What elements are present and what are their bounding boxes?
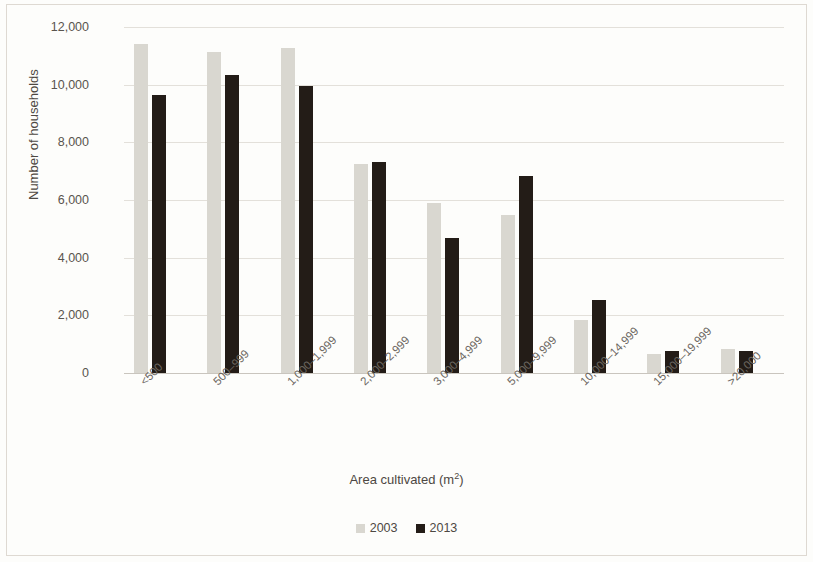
legend-item-2013[interactable]: 2013 [416, 521, 458, 535]
bar-group [417, 27, 490, 373]
bar-2013[interactable] [225, 75, 239, 373]
chart-page: Number of households 02,0004,0006,0008,0… [0, 0, 813, 562]
legend-label-2003: 2003 [370, 521, 398, 535]
bar-2003[interactable] [354, 164, 368, 373]
page-border-top [6, 4, 807, 5]
page-border-bottom [6, 555, 807, 556]
y-axis-tick-label: 0 [9, 366, 89, 380]
bar-2013[interactable] [299, 86, 313, 373]
bar-2003[interactable] [281, 48, 295, 373]
y-axis-tick-label: 12,000 [9, 20, 89, 34]
y-axis-tick-label: 2,000 [9, 308, 89, 322]
chart-legend: 2003 2013 [0, 521, 813, 535]
bar-2003[interactable] [501, 215, 515, 373]
bar-group [637, 27, 710, 373]
bar-2003[interactable] [574, 320, 588, 373]
bar-2003[interactable] [721, 349, 735, 373]
y-axis-tick-label: 10,000 [9, 78, 89, 92]
legend-item-2003[interactable]: 2003 [356, 521, 398, 535]
y-axis-tick-label: 8,000 [9, 135, 89, 149]
bar-2013[interactable] [519, 176, 533, 373]
bar-group [271, 27, 344, 373]
bar-2003[interactable] [207, 52, 221, 373]
bar-group [344, 27, 417, 373]
legend-label-2013: 2013 [430, 521, 458, 535]
bar-2013[interactable] [152, 95, 166, 373]
x-axis-title: Area cultivated (m2) [0, 471, 813, 487]
legend-swatch-2003-icon [356, 524, 365, 533]
y-axis-tick-label: 4,000 [9, 251, 89, 265]
bar-group [564, 27, 637, 373]
x-axis-title-base: Area cultivated (m [349, 472, 454, 487]
legend-swatch-2013-icon [416, 524, 425, 533]
x-axis-title-close: ) [459, 472, 463, 487]
bar-2003[interactable] [134, 44, 148, 373]
bar-group [491, 27, 564, 373]
bar-group [711, 27, 784, 373]
bar-2013[interactable] [372, 162, 386, 373]
plot-area: 02,0004,0006,0008,00010,00012,000 [124, 27, 784, 373]
bar-2003[interactable] [427, 203, 441, 373]
bar-group [197, 27, 270, 373]
bar-group [124, 27, 197, 373]
y-axis-tick-label: 6,000 [9, 193, 89, 207]
